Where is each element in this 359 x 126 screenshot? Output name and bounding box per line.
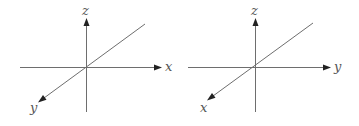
diagonal-axis-line [213,23,313,96]
vertical-axis-label: z [250,3,258,18]
arrow-down-left-icon [207,93,216,101]
horizontal-axis-label: x [165,59,173,74]
arrow-up-icon [253,18,259,26]
horizontal-axis-label: y [333,59,342,74]
vertical-axis-label: z [81,3,89,18]
axes-diagram-left: z x y [20,3,173,115]
arrow-down-left-icon [38,95,47,103]
diagonal-axis-label: x [200,100,208,115]
arrow-up-icon [84,18,90,26]
diagonal-axis-line [44,24,145,98]
coordinate-axes-figure: z x y z y x [0,0,359,126]
arrow-right-icon [323,65,331,71]
arrow-right-icon [154,65,162,71]
axes-diagram-right: z y x [188,3,342,115]
diagonal-axis-label: y [29,100,38,115]
